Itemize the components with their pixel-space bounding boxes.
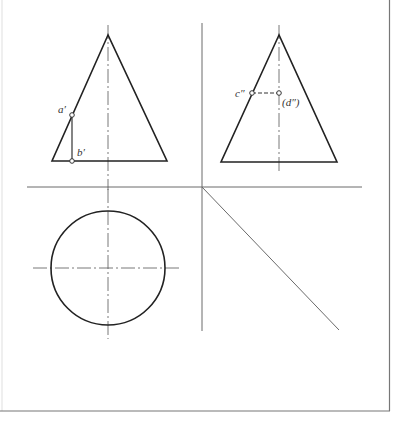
point-b-prime [70, 159, 75, 164]
label-d-double-prime: (d″) [282, 96, 300, 109]
point-a-prime [70, 113, 75, 118]
point-d-double-prime [277, 91, 282, 96]
top-view [33, 189, 180, 339]
label-c-double-prime: c″ [235, 87, 245, 99]
45-degree-miter-line [202, 187, 339, 330]
side-view: c″ (d″) [221, 25, 337, 174]
front-view: a′ b′ [52, 25, 167, 190]
cone-projection-drawing: a′ b′ c″ (d″) [0, 0, 400, 427]
label-a-prime: a′ [58, 103, 67, 115]
point-c-double-prime [250, 91, 255, 96]
front-view-cone-outline [52, 35, 167, 161]
label-b-prime: b′ [77, 146, 86, 158]
